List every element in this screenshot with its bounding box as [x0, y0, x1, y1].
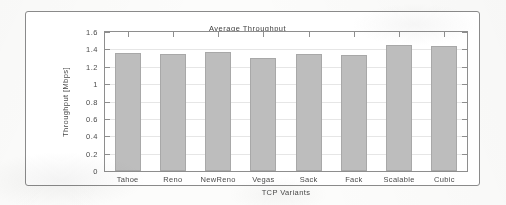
x-tick-mark — [309, 32, 310, 37]
y-tick-mark — [105, 154, 110, 155]
y-tick-mark — [462, 32, 467, 33]
bar — [296, 54, 322, 171]
x-tick-mark — [399, 32, 400, 37]
x-tick-mark — [218, 32, 219, 37]
y-tick-label: 0.4 — [86, 132, 98, 141]
x-axis-title: TCP Variants — [262, 188, 311, 197]
y-tick-mark — [105, 49, 110, 50]
y-tick-mark — [462, 102, 467, 103]
y-tick-mark — [105, 67, 110, 68]
y-tick-label: 0.2 — [86, 149, 98, 158]
gridline — [105, 49, 467, 50]
y-tick-label: 1.2 — [86, 62, 98, 71]
y-tick-label: 1.6 — [86, 28, 98, 37]
y-tick-mark — [105, 136, 110, 137]
bar — [386, 45, 412, 171]
bar — [160, 54, 186, 171]
x-tick-mark — [263, 32, 264, 37]
y-tick-mark — [462, 171, 467, 172]
x-tick-label: Tahoe — [117, 175, 139, 184]
y-tick-mark — [462, 67, 467, 68]
y-tick-mark — [105, 102, 110, 103]
x-tick-label: Vegas — [252, 175, 274, 184]
x-tick-label: Sack — [300, 175, 318, 184]
x-tick-mark — [354, 32, 355, 37]
bar — [431, 46, 457, 171]
y-tick-mark — [462, 84, 467, 85]
bar — [205, 52, 231, 171]
x-tick-label: Cubic — [434, 175, 455, 184]
x-tick-label: Reno — [163, 175, 182, 184]
y-tick-label: 1.4 — [86, 45, 98, 54]
x-tick-label: NewReno — [201, 175, 236, 184]
figure-frame: Average Throughput Throughput [Mbps] TCP… — [25, 11, 480, 186]
x-tick-mark — [173, 32, 174, 37]
y-tick-mark — [462, 154, 467, 155]
bar — [115, 53, 141, 171]
y-tick-mark — [105, 32, 110, 33]
x-tick-label: Fack — [345, 175, 362, 184]
x-tick-mark — [444, 32, 445, 37]
y-tick-mark — [462, 49, 467, 50]
y-tick-mark — [105, 119, 110, 120]
y-tick-label: 0 — [93, 167, 98, 176]
x-tick-label: Scalable — [384, 175, 415, 184]
plot-area: 00.20.40.60.811.21.41.6 TahoeRenoNewReno… — [104, 31, 468, 172]
x-tick-mark — [128, 32, 129, 37]
y-tick-mark — [462, 136, 467, 137]
bar — [250, 58, 276, 171]
bar — [341, 55, 367, 171]
y-tick-label: 0.6 — [86, 114, 98, 123]
y-axis-title: Throughput [Mbps] — [61, 67, 70, 137]
y-tick-mark — [105, 84, 110, 85]
y-tick-mark — [105, 171, 110, 172]
scanned-page-background: Average Throughput Throughput [Mbps] TCP… — [0, 0, 506, 205]
y-tick-label: 0.8 — [86, 97, 98, 106]
y-tick-label: 1 — [93, 80, 98, 89]
y-tick-mark — [462, 119, 467, 120]
